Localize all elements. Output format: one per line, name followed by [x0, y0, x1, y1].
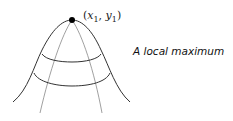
meridian-right [72, 20, 102, 113]
bell-curve-outline [13, 20, 130, 102]
maximum-point [69, 17, 75, 23]
level-ring-lower [34, 73, 110, 86]
caption-text: A local maximum [133, 45, 224, 57]
point-coordinates-label: (x1, y1) [83, 9, 121, 24]
level-ring-upper [42, 54, 101, 62]
meridian-left [40, 20, 72, 113]
